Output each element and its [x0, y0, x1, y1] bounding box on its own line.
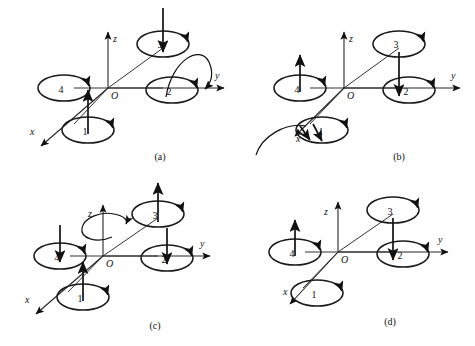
panel-d-arms	[303, 214, 393, 288]
arm-to-rotor-3	[338, 214, 393, 252]
arm-to-rotor-3	[344, 48, 399, 88]
axis-label-z: z	[348, 33, 353, 44]
panel-a-thrust-arrows	[88, 8, 163, 134]
rotor-4-label: 4	[59, 84, 64, 95]
origin-label: O	[341, 254, 348, 265]
panel-c-axes: z y x O	[24, 205, 210, 314]
quadrotor-motion-figure: z y x O 3 2 4 1 (a)	[0, 0, 475, 346]
panel-b-rotors: 3 2 4 1	[274, 31, 435, 143]
rotor-1-label: 1	[312, 289, 317, 300]
axis-label-x: x	[24, 294, 30, 305]
panel-b-rotation-arc-x	[256, 124, 322, 155]
axis-label-y: y	[450, 70, 456, 81]
rotor-4-label: 4	[295, 84, 300, 95]
panel-a-rotors: 3 2 4 1	[38, 31, 198, 143]
panel-a-rotation-arc-y	[166, 55, 212, 97]
rotor-2-label: 2	[162, 254, 167, 265]
axis-x	[41, 88, 108, 146]
rotor-3-label: 3	[394, 39, 399, 50]
panel-a: z y x O 3 2 4 1 (a)	[29, 8, 224, 163]
panel-d-axes: z y x O	[282, 202, 448, 304]
axis-label-y: y	[199, 238, 205, 249]
rotor-3-label: 3	[388, 206, 393, 217]
panel-b-arms	[310, 48, 399, 124]
panel-c: z y x O 3 2 4 1 (c)	[24, 183, 210, 332]
rotor-1-label: 1	[78, 293, 83, 304]
origin-label: O	[347, 90, 354, 101]
panel-b: z y x O 3 2 4 1 (b)	[256, 31, 460, 163]
axis-label-y: y	[437, 234, 443, 245]
arm-to-rotor-3	[108, 48, 163, 88]
axis-label-y: y	[214, 70, 220, 81]
axis-label-x: x	[282, 286, 288, 297]
axis-label-x: x	[29, 126, 35, 137]
rotor-2-label: 2	[404, 86, 409, 97]
rotation-arc-about-y-axis	[166, 55, 212, 97]
origin-label: O	[106, 258, 113, 269]
rotor-3-label: 3	[153, 210, 158, 221]
origin-label: O	[111, 90, 118, 101]
panel-c-caption: (c)	[149, 320, 160, 332]
axis-label-z: z	[112, 33, 117, 44]
rotor-3-label: 3	[158, 39, 163, 50]
rotor-4-label: 4	[290, 248, 295, 259]
rotor-2-label: 2	[398, 250, 403, 261]
panel-a-caption: (a)	[154, 151, 165, 163]
axis-label-z: z	[323, 206, 328, 217]
panel-d: z y x O 3 2 4 1 (d)	[269, 197, 448, 328]
rotor-4-label: 4	[55, 252, 60, 263]
rotor-1-label: 1	[83, 126, 88, 137]
panel-b-caption: (b)	[393, 151, 405, 163]
panel-d-caption: (d)	[384, 316, 396, 328]
